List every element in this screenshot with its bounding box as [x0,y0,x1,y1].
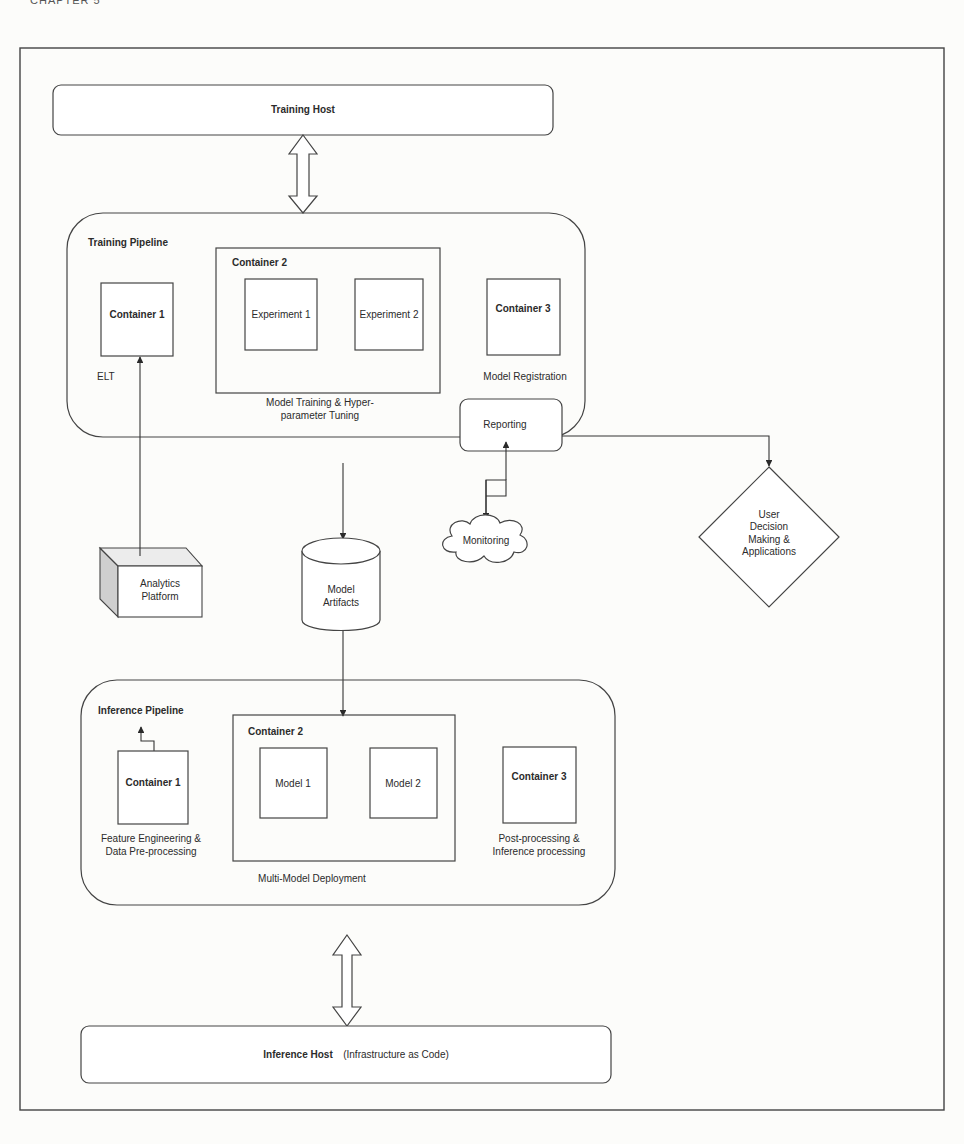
svg-text:Artifacts: Artifacts [323,597,359,608]
reporting-to-decision-connector [562,436,769,466]
svg-text:Decision: Decision [750,521,788,532]
multi-model-caption: Multi-Model Deployment [258,873,366,884]
svg-text:Container 2: Container 2 [248,726,303,737]
elt-label: ELT [97,371,115,382]
training-caption-line1: Model Training & Hyper- [266,397,374,408]
user-decision-diamond: User Decision Making & Applications [699,467,839,607]
svg-text:Container 1: Container 1 [125,777,180,788]
training-host-label: Training Host [271,104,336,115]
training-caption-line2: parameter Tuning [281,410,359,421]
svg-text:Container 3: Container 3 [511,771,566,782]
model-artifacts-database-icon: Model Artifacts [302,538,380,631]
inference-host-label: Inference Host [263,1049,333,1060]
double-arrow-icon [289,135,317,213]
inference-container-3: Container 3 [503,747,576,823]
svg-text:Platform: Platform [141,591,178,602]
svg-text:Reporting: Reporting [483,419,526,430]
training-pipeline-title: Training Pipeline [88,237,168,248]
training-container-1: Container 1 [101,283,173,356]
svg-text:Experiment 1: Experiment 1 [252,309,311,320]
double-arrow-icon [333,935,361,1026]
svg-text:Analytics: Analytics [140,578,180,589]
training-host: Training Host [53,85,553,135]
training-container-3: Container 3 [487,279,560,355]
inference-container-1: Container 1 [118,751,188,824]
mlops-diagram: Training Host Training Pipeline Containe… [0,0,964,1144]
svg-text:Container 3: Container 3 [495,303,550,314]
feature-engineering-line1: Feature Engineering & [101,833,201,844]
inference-pipeline: Inference Pipeline Container 1 Feature E… [81,680,615,905]
svg-text:Model 2: Model 2 [385,778,421,789]
training-pipeline: Training Pipeline Container 1 ELT Contai… [67,213,585,451]
svg-text:Container 2: Container 2 [232,257,287,268]
svg-text:Applications: Applications [742,546,796,557]
inference-pipeline-title: Inference Pipeline [98,705,184,716]
post-processing-line1: Post-processing & [498,833,579,844]
inference-host: Inference Host (Infrastructure as Code) [81,1026,611,1083]
inference-container-2: Container 2 Model 1 Model 2 [233,715,455,861]
svg-text:Making &: Making & [748,534,790,545]
model-registration-label: Model Registration [483,371,566,382]
svg-text:Model: Model [327,584,354,595]
svg-text:Container 1: Container 1 [109,309,164,320]
monitoring-label: Monitoring [463,535,510,546]
reporting-box: Reporting [460,399,562,451]
feature-engineering-line2: Data Pre-processing [105,846,196,857]
training-container-2: Container 2 Experiment 1 Experiment 2 [216,248,440,393]
svg-text:Experiment 2: Experiment 2 [360,309,419,320]
inference-host-note: (Infrastructure as Code) [343,1049,449,1060]
svg-text:User: User [758,509,780,520]
monitoring-cloud-icon: Monitoring [443,515,527,563]
analytics-platform-cube: Analytics Platform [100,548,202,617]
svg-text:Model 1: Model 1 [275,778,311,789]
post-processing-line2: Inference processing [493,846,586,857]
